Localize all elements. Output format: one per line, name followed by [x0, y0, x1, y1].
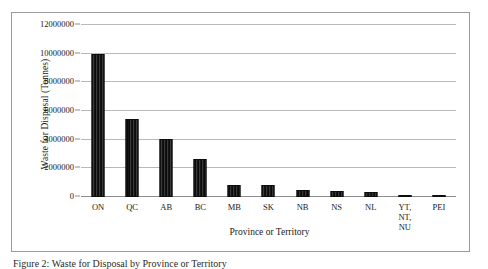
y-tick-label: 8000000	[44, 76, 74, 86]
x-tick-label: SK	[263, 202, 274, 212]
y-tick-mark	[75, 196, 80, 197]
y-tick-label: 12000000	[40, 19, 74, 29]
x-tick-label: ON	[92, 202, 104, 212]
bar-group: NS	[320, 25, 354, 197]
bar	[194, 159, 207, 197]
plot-area: 0200000040000006000000800000010000000120…	[81, 25, 456, 197]
y-tick-label: 6000000	[44, 105, 74, 115]
bar	[330, 191, 343, 197]
bar-group: BC	[183, 25, 217, 197]
y-tick-label: 0	[70, 191, 74, 201]
y-tick-mark	[75, 167, 80, 168]
bar	[296, 190, 309, 197]
figure-frame: Waste for Disposal (Tonnes) 020000004000…	[11, 12, 470, 252]
y-tick-mark	[75, 52, 80, 53]
y-tick-mark	[75, 81, 80, 82]
x-tick-label: MB	[228, 202, 241, 212]
bar	[92, 54, 105, 197]
bar-group: YT, NT, NU	[388, 25, 422, 197]
bar-group: ON	[81, 25, 115, 197]
y-tick-mark	[75, 110, 80, 111]
y-tick-label: 10000000	[40, 48, 74, 58]
bar-group: QC	[115, 25, 149, 197]
y-tick-mark	[75, 24, 80, 25]
x-tick-label: NB	[297, 202, 309, 212]
x-tick-label: QC	[126, 202, 138, 212]
x-tick-label: AB	[160, 202, 172, 212]
bar-group: NL	[354, 25, 388, 197]
bar-group: PEI	[422, 25, 456, 197]
figure-caption: Figure 2: Waste for Disposal by Province…	[13, 258, 473, 269]
x-tick-label: NL	[365, 202, 376, 212]
bar-group: MB	[217, 25, 251, 197]
bar-group: SK	[251, 25, 285, 197]
bar-chart: Waste for Disposal (Tonnes) 020000004000…	[12, 13, 469, 251]
bar	[398, 195, 411, 197]
y-tick-label: 4000000	[44, 134, 74, 144]
bar-group: AB	[149, 25, 183, 197]
x-tick-label: NS	[331, 202, 342, 212]
x-tick-label: BC	[195, 202, 206, 212]
x-tick-label: PEI	[433, 202, 446, 212]
bar	[432, 195, 445, 197]
bar	[228, 185, 241, 197]
bar-group: NB	[286, 25, 320, 197]
bar	[262, 185, 275, 197]
x-axis-title: Province or Territory	[82, 227, 457, 237]
y-tick-label: 2000000	[44, 162, 74, 172]
bar	[160, 139, 173, 197]
bar	[364, 192, 377, 197]
y-tick-mark	[75, 138, 80, 139]
bar	[126, 119, 139, 197]
bars-layer: ONQCABBCMBSKNBNSNLYT, NT, NUPEI	[81, 25, 456, 197]
